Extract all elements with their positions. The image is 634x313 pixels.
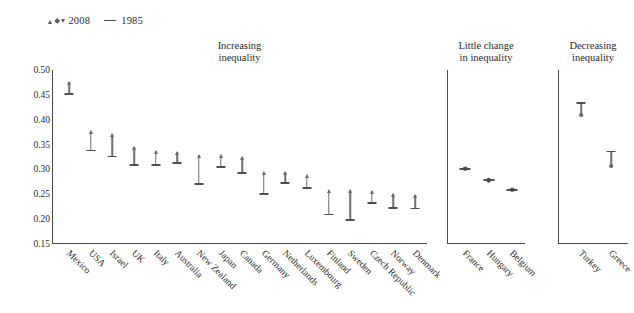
y-axis-tick: 0.15	[33, 239, 53, 249]
marker-1985-dash	[389, 207, 398, 209]
marker-1985-dash	[86, 150, 95, 152]
marker-2008-point	[370, 190, 374, 194]
panel-title-line: inequality	[52, 52, 427, 64]
marker-2008-point	[154, 150, 158, 154]
triangle-up-icon	[48, 20, 52, 24]
marker-1985-dash	[151, 164, 160, 166]
plot-area: TurkeyGreece	[558, 70, 628, 244]
y-axis-tick: 0.30	[33, 164, 53, 174]
marker-2008-point	[240, 156, 244, 160]
marker-2008-point	[348, 189, 352, 193]
marker-2008-point	[89, 130, 93, 134]
x-axis-label: Israel	[108, 248, 130, 270]
marker-1985-dash	[324, 214, 333, 216]
marker-2008-point	[609, 164, 613, 168]
panel-title-line: Little change	[447, 40, 525, 52]
marker-1985-dash	[173, 162, 182, 164]
y-axis-tick: 0.20	[33, 214, 53, 224]
marker-1985-dash	[65, 93, 74, 95]
data-marker	[387, 70, 399, 244]
marker-2008-point	[305, 174, 309, 178]
data-marker	[605, 70, 617, 244]
x-axis-label: Italy	[152, 248, 171, 267]
marker-1985-dash	[216, 166, 225, 168]
legend-markers-2008	[48, 16, 65, 25]
data-marker	[63, 70, 75, 244]
panel-title-line: inequality	[558, 52, 628, 64]
data-marker	[366, 70, 378, 244]
diamond-icon	[54, 18, 60, 24]
marker-1985-dash	[238, 172, 247, 174]
data-marker	[575, 70, 587, 244]
data-marker	[506, 70, 518, 244]
panel-title-line: Decreasing	[558, 40, 628, 52]
marker-2008-point	[283, 171, 287, 175]
data-marker	[171, 70, 183, 244]
legend-entry-2008: 2008	[48, 15, 90, 26]
data-marker	[85, 70, 97, 244]
data-marker	[409, 70, 421, 244]
data-marker	[279, 70, 291, 244]
marker-1985-dash	[130, 164, 139, 166]
panel-2: Little changein inequalityFranceHungaryB…	[447, 70, 525, 244]
marker-stem	[328, 190, 330, 215]
marker-2008-point	[463, 166, 468, 171]
x-axis-label: Turkey	[577, 248, 603, 274]
marker-stem	[112, 134, 114, 156]
marker-stem	[349, 190, 351, 220]
marker-2008-point	[67, 81, 71, 85]
data-marker	[301, 70, 313, 244]
y-axis-tick: 0.50	[33, 65, 53, 75]
dash-line-icon	[104, 20, 116, 22]
panel-3: DecreasinginequalityTurkeyGreece	[558, 70, 628, 244]
y-axis-tick: 0.45	[33, 90, 53, 100]
marker-stem	[263, 172, 265, 194]
panel-title-line: in inequality	[447, 52, 525, 64]
data-marker	[106, 70, 118, 244]
legend-label-1985: 1985	[121, 15, 143, 26]
panel-1: Increasinginequality0.500.450.400.350.30…	[52, 70, 427, 244]
panel-title-line: Increasing	[52, 40, 427, 52]
x-axis-label: UK	[130, 248, 147, 265]
marker-2008-point	[327, 189, 331, 193]
marker-1985-dash	[577, 102, 586, 104]
marker-2008-point	[197, 154, 201, 158]
marker-1985-dash	[194, 183, 203, 185]
marker-1985-dash	[346, 219, 355, 221]
marker-2008-point	[110, 133, 114, 137]
marker-1985-dash	[607, 151, 616, 153]
data-marker	[236, 70, 248, 244]
marker-1985-dash	[367, 202, 376, 204]
chart-legend: 2008 1985	[48, 15, 143, 26]
chart-root: 2008 1985 Increasinginequality0.500.450.…	[0, 0, 634, 313]
marker-1985-dash	[108, 156, 117, 158]
marker-2008-point	[413, 194, 417, 198]
marker-2008-point	[391, 193, 395, 197]
triangle-down-icon	[61, 19, 65, 23]
data-marker	[215, 70, 227, 244]
panel-title: Decreasinginequality	[558, 40, 628, 63]
data-marker	[193, 70, 205, 244]
y-axis-tick: 0.35	[33, 140, 53, 150]
panel-title: Little changein inequality	[447, 40, 525, 63]
legend-entry-1985: 1985	[104, 15, 143, 26]
legend-label-2008: 2008	[68, 15, 90, 26]
marker-1985-dash	[302, 187, 311, 189]
marker-1985-dash	[281, 182, 290, 184]
y-axis-tick: 0.40	[33, 115, 53, 125]
marker-2008-point	[580, 113, 584, 117]
data-marker	[128, 70, 140, 244]
data-marker	[483, 70, 495, 244]
plot-area: FranceHungaryBelgium	[447, 70, 525, 244]
marker-2008-point	[219, 154, 223, 158]
marker-1985-dash	[259, 193, 268, 195]
marker-2008-point	[175, 151, 179, 155]
marker-stem	[198, 155, 200, 184]
x-axis-label: Denmark	[411, 248, 443, 280]
marker-1985-dash	[411, 208, 420, 210]
marker-2008-point	[262, 171, 266, 175]
marker-2008-point	[486, 178, 491, 183]
plot-area: 0.500.450.400.350.300.250.200.15MexicoUS…	[52, 70, 427, 244]
data-marker	[459, 70, 471, 244]
marker-2008-point	[510, 188, 515, 193]
